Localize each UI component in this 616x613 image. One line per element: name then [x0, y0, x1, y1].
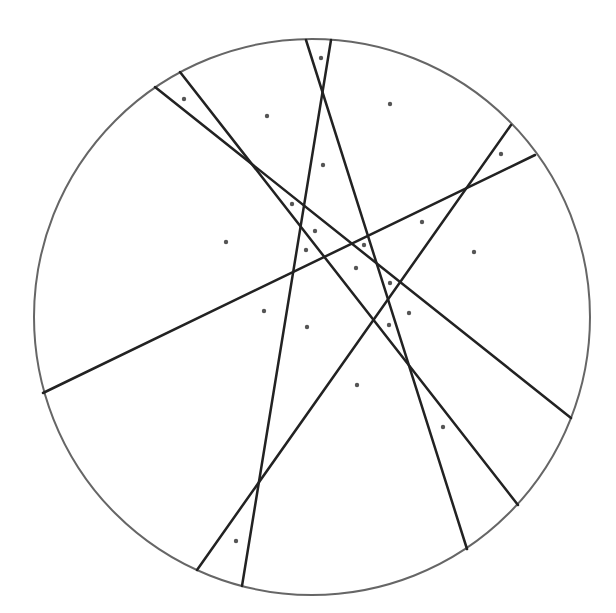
region-point	[224, 240, 228, 244]
region-point	[407, 311, 411, 315]
chord-line-2	[180, 72, 518, 505]
region-point	[388, 102, 392, 106]
region-point	[388, 281, 392, 285]
region-point	[262, 309, 266, 313]
region-point	[441, 425, 445, 429]
region-point	[387, 323, 391, 327]
region-point	[354, 266, 358, 270]
region-point	[362, 243, 366, 247]
region-point	[420, 220, 424, 224]
region-point	[499, 152, 503, 156]
chord-group	[43, 40, 571, 586]
chord-line-3	[306, 40, 467, 549]
region-point	[182, 97, 186, 101]
region-point	[321, 163, 325, 167]
chord-line-1	[155, 87, 571, 418]
region-point	[234, 539, 238, 543]
chord-line-6	[43, 155, 535, 393]
outer-circle	[34, 39, 590, 595]
region-point	[472, 250, 476, 254]
chord-line-4	[242, 40, 331, 586]
region-point	[319, 56, 323, 60]
region-point	[355, 383, 359, 387]
region-point	[290, 202, 294, 206]
region-point	[313, 229, 317, 233]
region-point	[305, 325, 309, 329]
region-point	[304, 248, 308, 252]
region-point	[265, 114, 269, 118]
diagram-canvas	[0, 0, 616, 613]
point-group	[182, 56, 503, 543]
